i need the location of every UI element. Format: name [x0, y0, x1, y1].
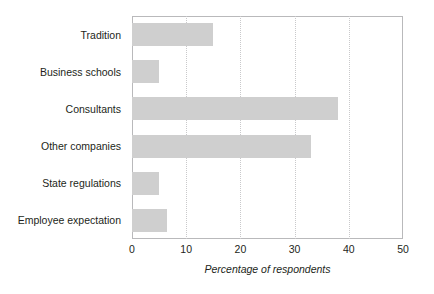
category-labels: TraditionBusiness schoolsConsultantsOthe… [0, 16, 127, 239]
x-axis-tick-labels: 01020304050 [132, 243, 403, 259]
x-tick-label: 30 [289, 243, 301, 256]
bar [132, 172, 159, 195]
bar [132, 209, 167, 232]
x-tick-label: 0 [129, 243, 135, 256]
bar-row [132, 60, 403, 83]
category-label: Employee expectation [0, 214, 127, 226]
bar-row [132, 23, 403, 46]
category-label: Other companies [0, 140, 127, 152]
x-tick-label: 20 [235, 243, 247, 256]
x-tick-label: 40 [343, 243, 355, 256]
category-label: Consultants [0, 103, 127, 115]
bar-row [132, 209, 403, 232]
category-label: Tradition [0, 29, 127, 41]
bar-row [132, 97, 403, 120]
bars-layer [132, 16, 403, 239]
x-axis-title: Percentage of respondents [132, 263, 403, 275]
bar-chart: TraditionBusiness schoolsConsultantsOthe… [0, 0, 434, 294]
bar-row [132, 135, 403, 158]
bar-row [132, 172, 403, 195]
category-label: Business schools [0, 66, 127, 78]
category-label: State regulations [0, 177, 127, 189]
bar [132, 97, 338, 120]
x-tick-label: 50 [397, 243, 409, 256]
bar [132, 60, 159, 83]
x-tick-label: 10 [180, 243, 192, 256]
bar [132, 135, 311, 158]
bar [132, 23, 213, 46]
